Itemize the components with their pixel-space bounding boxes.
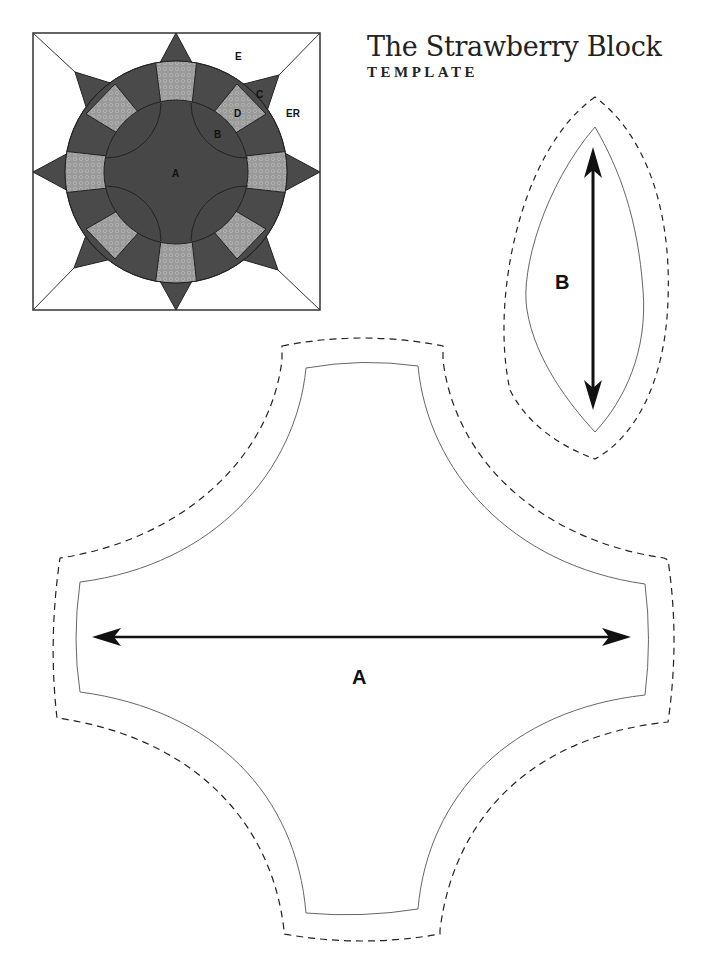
template-b: B xyxy=(504,97,668,459)
template-a: A xyxy=(53,338,674,941)
label-a: A xyxy=(172,168,179,179)
template-b-cut-line xyxy=(526,127,644,432)
block-diagram: A B C D E ER xyxy=(33,33,320,310)
label-d: D xyxy=(234,108,241,119)
label-er: ER xyxy=(286,108,301,119)
template-b-label: B xyxy=(555,271,569,293)
template-artwork: A B C D E ER B A xyxy=(0,0,709,971)
label-b: B xyxy=(214,129,221,140)
label-e: E xyxy=(235,51,242,62)
label-c: C xyxy=(256,89,263,100)
template-a-cut-line xyxy=(76,362,649,914)
template-b-grain-arrow xyxy=(584,147,602,410)
template-a-label: A xyxy=(352,666,366,688)
template-a-grain-arrow xyxy=(92,628,631,646)
template-b-seam-allowance xyxy=(504,97,668,459)
template-a-seam-allowance xyxy=(53,338,674,941)
